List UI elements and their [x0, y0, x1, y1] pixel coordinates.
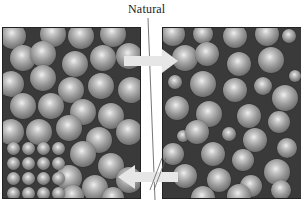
- arrow-right-icon: [124, 49, 178, 73]
- arrow-left-icon: [118, 158, 178, 190]
- arrows-overlay: [0, 0, 301, 208]
